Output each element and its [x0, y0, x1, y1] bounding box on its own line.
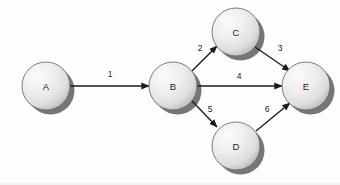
edge-d-to-e[interactable] [256, 103, 290, 131]
node-label-a: A [43, 81, 50, 92]
diagram-canvas: ABCDE 123456 [0, 0, 340, 185]
node-label-e: E [303, 81, 310, 92]
node-e[interactable]: E [282, 62, 330, 110]
edge-weight-a-b: 1 [108, 69, 113, 79]
node-layer: ABCDE [22, 8, 330, 170]
edge-weight-b-d: 5 [208, 104, 213, 114]
graph-svg: ABCDE 123456 [0, 0, 340, 185]
node-d[interactable]: D [212, 122, 260, 170]
edge-c-to-e[interactable] [255, 47, 290, 71]
node-label-b: B [170, 81, 177, 92]
node-a[interactable]: A [22, 62, 70, 110]
edge-weight-b-c: 2 [198, 43, 203, 53]
node-b[interactable]: B [149, 62, 197, 110]
bottom-edge-strip [0, 183, 340, 185]
node-label-d: D [232, 141, 239, 152]
node-c[interactable]: C [212, 8, 260, 56]
edge-b-to-c[interactable] [192, 46, 217, 71]
edge-weight-d-e: 6 [265, 104, 270, 114]
edge-weight-c-e: 3 [278, 43, 283, 53]
node-label-c: C [232, 27, 239, 38]
edge-weight-b-e: 4 [237, 71, 242, 81]
edge-b-to-d[interactable] [192, 101, 217, 127]
